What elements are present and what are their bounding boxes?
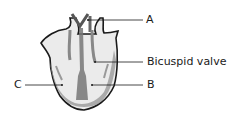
label-c: C [14, 79, 22, 91]
label-bicuspid-valve: Bicuspid valve [147, 56, 226, 68]
label-b: B [147, 79, 155, 91]
left-valve-cord [69, 30, 70, 60]
label-a: A [146, 14, 154, 26]
